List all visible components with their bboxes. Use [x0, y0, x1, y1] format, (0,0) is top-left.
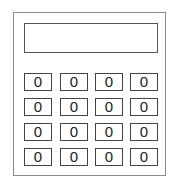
key-button[interactable]: 0: [95, 73, 123, 91]
key-button[interactable]: 0: [24, 123, 52, 141]
key-button[interactable]: 0: [95, 98, 123, 116]
key-button[interactable]: 0: [60, 73, 88, 91]
key-button[interactable]: 0: [130, 98, 158, 116]
key-button[interactable]: 0: [60, 148, 88, 166]
key-button[interactable]: 0: [60, 123, 88, 141]
key-button[interactable]: 0: [60, 98, 88, 116]
calculator-display: [24, 23, 158, 53]
key-button[interactable]: 0: [24, 148, 52, 166]
key-button[interactable]: 0: [130, 123, 158, 141]
key-button[interactable]: 0: [24, 73, 52, 91]
key-button[interactable]: 0: [130, 148, 158, 166]
key-button[interactable]: 0: [130, 73, 158, 91]
key-button[interactable]: 0: [24, 98, 52, 116]
key-button[interactable]: 0: [95, 148, 123, 166]
key-button[interactable]: 0: [95, 123, 123, 141]
